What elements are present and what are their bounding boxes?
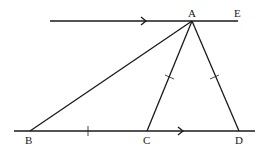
geometry-diagram: A E B C D [0, 0, 270, 149]
segment-AC [147, 21, 192, 131]
label-C: C [143, 134, 150, 146]
label-E: E [234, 7, 241, 19]
tick-mark-AD [210, 75, 219, 79]
label-D: D [235, 134, 243, 146]
label-A: A [188, 7, 196, 19]
segment-AD [192, 21, 239, 131]
label-B: B [25, 134, 32, 146]
